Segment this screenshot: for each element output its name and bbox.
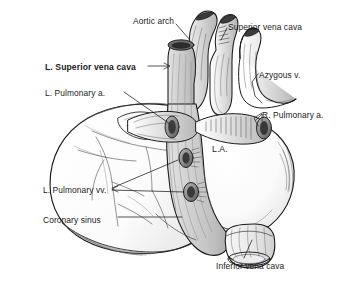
label-l-superior-vena-cava: L. Superior vena cava (45, 62, 136, 72)
anatomical-figure: Aortic arch Superior vena cava L. Superi… (0, 0, 346, 281)
azygous-vein-vessel (239, 28, 296, 108)
label-aortic-arch: Aortic arch (133, 16, 174, 26)
heart-illustration (0, 0, 346, 281)
label-azygous-v: Azygous v. (259, 70, 300, 80)
leader-aortic-arch (176, 24, 190, 40)
label-superior-vena-cava: Superior vena cava (228, 22, 302, 32)
label-coronary-sinus: Coronary sinus (43, 215, 101, 225)
label-inferior-vena-cava: Inferior vena cava (216, 261, 284, 271)
label-left-atrium: L.A. (212, 144, 228, 154)
label-l-pulmonary-vv: L. Pulmonary vv. (43, 185, 106, 195)
label-l-pulmonary-a: L. Pulmonary a. (45, 88, 105, 98)
label-r-pulmonary-a: R. Pulmonary a. (262, 110, 324, 120)
